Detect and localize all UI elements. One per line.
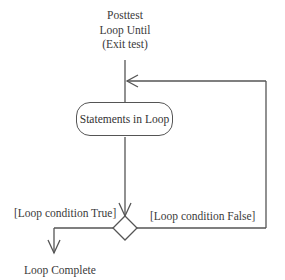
end-label: Loop Complete bbox=[24, 264, 96, 277]
diagram-title: Posttest Loop Until (Exit test) bbox=[84, 8, 166, 52]
title-line-3: (Exit test) bbox=[84, 37, 166, 52]
activity-node: Statements in Loop bbox=[76, 102, 173, 136]
activity-label: Statements in Loop bbox=[80, 113, 169, 125]
false-guard-label: [Loop condition False] bbox=[150, 210, 255, 223]
title-line-1: Posttest bbox=[84, 8, 166, 23]
true-guard-label: [Loop condition True] bbox=[14, 207, 116, 220]
posttest-loop-diagram: Posttest Loop Until (Exit test) Statemen… bbox=[0, 0, 285, 280]
title-line-2: Loop Until bbox=[84, 23, 166, 38]
decision-diamond bbox=[113, 216, 137, 240]
